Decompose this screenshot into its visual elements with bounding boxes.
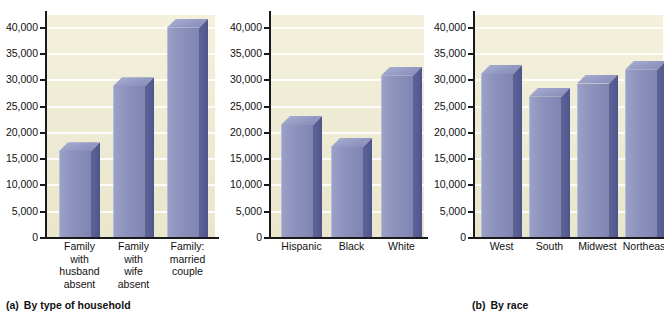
bar bbox=[529, 88, 561, 237]
y-tick-label: 25,000 bbox=[434, 100, 466, 111]
bar-side-face bbox=[609, 75, 618, 238]
bar-top-face bbox=[381, 67, 422, 76]
y-tick-label: 5,000 bbox=[440, 205, 466, 216]
bar bbox=[481, 65, 513, 237]
y-tick-label: 20,000 bbox=[6, 127, 38, 138]
x-axis-category-label: Family:marriedcouple bbox=[159, 240, 217, 278]
bar bbox=[331, 138, 363, 237]
bar-front-face bbox=[59, 151, 92, 237]
x-label-line: with bbox=[51, 253, 109, 266]
x-label-line: wife bbox=[105, 265, 163, 278]
y-tick-mark bbox=[264, 27, 270, 29]
bar-top-face bbox=[331, 138, 372, 147]
x-label-line: couple bbox=[159, 265, 217, 278]
panel-a-caption-tag: (a) bbox=[6, 299, 19, 311]
y-tick-label: 30,000 bbox=[434, 74, 466, 85]
y-tick-mark bbox=[468, 53, 474, 55]
y-tick-mark bbox=[40, 211, 46, 213]
y-tick-label: 0 bbox=[256, 232, 262, 243]
y-tick-label: 15,000 bbox=[434, 153, 466, 164]
bar-front-face bbox=[281, 125, 314, 237]
panel-a-y-axis bbox=[45, 11, 47, 239]
y-tick-mark bbox=[264, 79, 270, 81]
x-label-line: Family bbox=[105, 240, 163, 253]
y-tick-label: 20,000 bbox=[434, 127, 466, 138]
bar-top-face-shape bbox=[281, 116, 322, 125]
y-tick-mark bbox=[40, 27, 46, 29]
x-label-line: husband bbox=[51, 265, 109, 278]
x-label-line: Family: bbox=[159, 240, 217, 253]
bar-side-face bbox=[657, 61, 664, 237]
bar-chart-figure: 05,00010,00015,00020,00025,00030,00035,0… bbox=[0, 0, 664, 321]
panel-a-caption-text: By type of household bbox=[24, 299, 131, 311]
y-tick-mark bbox=[264, 106, 270, 108]
bar-front-face bbox=[529, 97, 562, 237]
y-tick-label: 10,000 bbox=[434, 179, 466, 190]
bar-top-face bbox=[113, 77, 154, 86]
y-tick-label: 15,000 bbox=[6, 153, 38, 164]
bar-top-face-shape bbox=[529, 88, 570, 97]
y-tick-mark bbox=[468, 158, 474, 160]
y-tick-label: 25,000 bbox=[230, 100, 262, 111]
bar-top-face-shape bbox=[113, 77, 154, 86]
bar-top-face-shape bbox=[481, 65, 522, 74]
bar-front-face bbox=[625, 70, 658, 237]
bar-top-face bbox=[529, 88, 570, 97]
y-tick-label: 40,000 bbox=[6, 21, 38, 32]
y-tick-mark bbox=[468, 237, 474, 239]
y-tick-label: 5,000 bbox=[12, 205, 38, 216]
x-axis-category-label: Familywithwifeabsent bbox=[105, 240, 163, 290]
y-tick-label: 0 bbox=[32, 232, 38, 243]
y-tick-label: 35,000 bbox=[434, 48, 466, 59]
bar bbox=[113, 77, 145, 237]
panel-b: 05,00010,00015,00020,00025,00030,00035,0… bbox=[232, 0, 440, 321]
bar-front-face bbox=[381, 76, 414, 237]
bar-top-face-shape bbox=[59, 142, 100, 151]
bar bbox=[59, 142, 91, 237]
bar-front-face bbox=[167, 28, 200, 237]
y-tick-mark bbox=[40, 132, 46, 134]
y-tick-label: 40,000 bbox=[434, 21, 466, 32]
y-tick-mark bbox=[468, 184, 474, 186]
panel-a: 05,00010,00015,00020,00025,00030,00035,0… bbox=[0, 0, 232, 321]
x-label-line: Northeast bbox=[617, 240, 664, 253]
gridline bbox=[271, 27, 424, 29]
bar-top-face bbox=[59, 142, 100, 151]
x-label-line: Family bbox=[51, 240, 109, 253]
y-tick-mark bbox=[40, 79, 46, 81]
panel-c-x-axis bbox=[473, 237, 664, 239]
x-label-line: absent bbox=[51, 278, 109, 291]
panel-b-y-axis bbox=[269, 11, 271, 239]
y-tick-mark bbox=[468, 211, 474, 213]
bar-side-face bbox=[313, 116, 322, 237]
bar-top-face bbox=[167, 19, 208, 28]
y-tick-label: 40,000 bbox=[230, 21, 262, 32]
bar-front-face bbox=[113, 86, 146, 237]
y-tick-mark bbox=[264, 132, 270, 134]
y-tick-label: 30,000 bbox=[6, 74, 38, 85]
y-tick-label: 20,000 bbox=[230, 127, 262, 138]
bar-top-face-shape bbox=[167, 19, 208, 28]
bar-side-face bbox=[513, 65, 522, 237]
y-tick-mark bbox=[40, 106, 46, 108]
x-axis-category-label: White bbox=[373, 240, 431, 253]
y-tick-mark bbox=[40, 53, 46, 55]
panel-b-x-axis bbox=[269, 237, 428, 239]
x-axis-category-label: Familywithhusbandabsent bbox=[51, 240, 109, 290]
bar-side-face bbox=[413, 67, 422, 237]
y-tick-label: 15,000 bbox=[230, 153, 262, 164]
bar-top-face-shape bbox=[625, 61, 664, 70]
panel-c-axis-area: 05,00010,00015,00020,00025,00030,00035,0… bbox=[473, 15, 663, 237]
y-tick-mark bbox=[264, 184, 270, 186]
bar-top-face bbox=[625, 61, 664, 70]
panel-a-x-axis bbox=[45, 237, 219, 239]
x-axis-category-label: Northeast bbox=[617, 240, 664, 253]
y-tick-mark bbox=[264, 53, 270, 55]
y-tick-mark bbox=[468, 27, 474, 29]
y-tick-label: 35,000 bbox=[6, 48, 38, 59]
y-tick-mark bbox=[40, 237, 46, 239]
gridline bbox=[475, 53, 663, 55]
x-label-line: White bbox=[373, 240, 431, 253]
y-tick-mark bbox=[468, 79, 474, 81]
y-tick-label: 5,000 bbox=[236, 205, 262, 216]
